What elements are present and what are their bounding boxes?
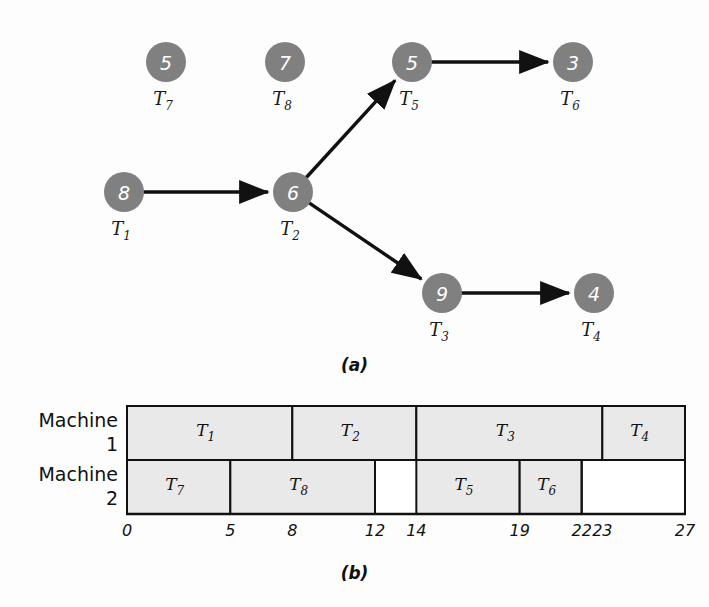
gantt-panel: Machine1T1T2T3T4Machine2T7T8T5T6 0581214… bbox=[0, 395, 709, 565]
node-label-t1: T1 bbox=[111, 218, 131, 243]
graph-edge-group bbox=[143, 62, 569, 293]
axis-tick-12: 12 bbox=[365, 521, 385, 540]
task-graph-svg: 8T16T29T34T45T53T65T77T8 bbox=[0, 0, 709, 390]
axis-tick-22: 22 bbox=[571, 521, 591, 540]
node-label-t6: T6 bbox=[560, 88, 580, 113]
task-graph-panel: 8T16T29T34T45T53T65T77T8 (a) bbox=[0, 0, 709, 390]
machine-label-2: Machine bbox=[38, 463, 118, 485]
node-weight-text: 4 bbox=[588, 283, 600, 305]
caption-a: (a) bbox=[0, 355, 709, 375]
node-weight-text: 9 bbox=[436, 283, 448, 305]
gantt-svg: Machine1T1T2T3T4Machine2T7T8T5T6 0581214… bbox=[0, 395, 709, 565]
node-weight-text: 3 bbox=[567, 52, 579, 74]
graph-node-t2[interactable]: 6T2 bbox=[273, 172, 313, 243]
axis-tick-23: 23 bbox=[592, 521, 612, 540]
node-weight-text: 5 bbox=[160, 52, 172, 74]
axis-tick-27: 27 bbox=[675, 521, 696, 540]
graph-node-t1[interactable]: 8T1 bbox=[104, 172, 144, 243]
caption-b: (b) bbox=[0, 563, 709, 583]
axis-tick-5: 5 bbox=[225, 521, 235, 540]
figure-page: 8T16T29T34T45T53T65T77T8 (a) Machine1T1T… bbox=[0, 0, 709, 607]
graph-node-t5[interactable]: 5T5 bbox=[392, 42, 432, 113]
machine-number-2: 2 bbox=[106, 487, 118, 509]
graph-node-t6[interactable]: 3T6 bbox=[553, 42, 593, 113]
node-weight-text: 6 bbox=[287, 182, 299, 204]
axis-tick-0: 0 bbox=[122, 521, 132, 540]
gantt-axis-group: 058121419222327 bbox=[122, 514, 696, 540]
gantt-row-group: Machine1T1T2T3T4Machine2T7T8T5T6 bbox=[38, 406, 685, 514]
machine-label-1: Machine bbox=[38, 409, 118, 431]
axis-tick-8: 8 bbox=[287, 521, 297, 540]
node-label-t5: T5 bbox=[399, 88, 419, 113]
node-label-t8: T8 bbox=[272, 88, 292, 113]
node-weight-text: 7 bbox=[279, 52, 291, 74]
graph-node-t8[interactable]: 7T8 bbox=[265, 42, 305, 113]
graph-node-t4[interactable]: 4T4 bbox=[574, 273, 614, 344]
graph-edge-t2-to-t3 bbox=[309, 203, 422, 279]
axis-tick-19: 19 bbox=[509, 521, 529, 540]
axis-tick-14: 14 bbox=[406, 521, 426, 540]
node-weight-text: 5 bbox=[406, 52, 418, 74]
node-label-t7: T7 bbox=[153, 88, 173, 113]
machine-number-1: 1 bbox=[106, 433, 118, 455]
graph-node-t3[interactable]: 9T3 bbox=[422, 273, 462, 344]
graph-edge-t2-to-t5 bbox=[306, 80, 395, 178]
node-label-t4: T4 bbox=[581, 319, 601, 344]
node-label-t2: T2 bbox=[280, 218, 300, 243]
node-weight-text: 8 bbox=[118, 182, 130, 204]
node-label-t3: T3 bbox=[429, 319, 449, 344]
graph-node-t7[interactable]: 5T7 bbox=[146, 42, 186, 113]
